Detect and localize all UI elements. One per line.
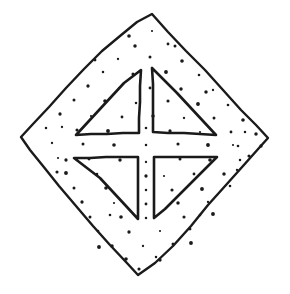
stipple-dot: [64, 171, 68, 175]
stipple-dot: [227, 104, 230, 107]
stipple-dot: [106, 129, 110, 133]
stipple-dot: [182, 215, 185, 218]
stipple-dot: [211, 212, 215, 216]
stipple-dot: [237, 145, 240, 148]
stipple-dot: [189, 241, 193, 245]
stipple-dot: [112, 143, 116, 147]
stipple-dot: [97, 245, 101, 249]
stipple-dot: [164, 70, 168, 74]
stipple-dot: [57, 157, 59, 159]
stipple-dot: [212, 89, 214, 91]
stipple-dot: [144, 174, 147, 177]
stipple-dot: [102, 71, 105, 74]
stipple-dot: [86, 84, 89, 87]
stipple-dot: [145, 189, 148, 192]
stipple-dot: [109, 214, 112, 217]
stipple-dot: [159, 230, 161, 232]
stipple-dot: [145, 127, 148, 130]
stipple-dot: [230, 131, 233, 134]
stipple-dot: [127, 230, 130, 233]
stipple-dot: [196, 102, 200, 106]
stipple-dot: [170, 188, 173, 191]
stipple-dot: [163, 175, 165, 177]
stipple-dot: [118, 158, 122, 162]
stipple-dot: [145, 203, 148, 206]
stipple-dot: [51, 142, 53, 144]
figure-canvas: Stippled diamond with four triangles for…: [0, 0, 290, 294]
stipple-dot: [213, 117, 216, 120]
diamond-stipple-drawing: Stippled diamond with four triangles for…: [0, 0, 290, 294]
stipple-dot: [174, 45, 177, 48]
stipple-dot: [137, 267, 140, 270]
stipple-dot: [82, 143, 85, 146]
stipple-dot: [149, 87, 152, 90]
stipple-dot: [232, 144, 234, 146]
stipple-dot: [183, 117, 185, 119]
stipple-dot: [155, 256, 158, 259]
background-plate: [0, 0, 290, 294]
stipple-dot: [145, 144, 148, 147]
stipple-dot: [204, 90, 208, 94]
stipple-dot: [229, 185, 232, 188]
stipple-dot: [73, 187, 76, 190]
stipple-dot: [127, 34, 131, 38]
stipple-dot: [113, 202, 115, 204]
stipple-dot: [193, 173, 196, 176]
stipple-dot: [239, 159, 242, 162]
stipple-dot: [176, 201, 180, 205]
stipple-dot: [80, 200, 83, 203]
stipple-dot: [45, 127, 48, 130]
stipple-dot: [133, 44, 137, 48]
stipple-dot: [89, 216, 92, 219]
stipple-dot: [198, 74, 201, 77]
stipple-dot: [142, 245, 144, 247]
stipple-dot: [206, 143, 210, 147]
stipple-dot: [241, 118, 245, 122]
stipple-dot: [149, 56, 152, 59]
stipple-dot: [151, 30, 153, 32]
stipple-dot: [64, 158, 67, 161]
stipple-dot: [176, 142, 179, 145]
stipple-dot: [200, 187, 204, 191]
stipple-dot: [145, 217, 148, 220]
stipple-dot: [58, 112, 61, 115]
stipple-dot: [167, 43, 170, 46]
stipple-dot: [121, 116, 124, 119]
stipple-dot: [119, 215, 123, 219]
stipple-dot: [61, 126, 63, 128]
stipple-dot: [117, 58, 119, 60]
stipple-dot: [145, 161, 147, 163]
stipple-dot: [254, 132, 258, 136]
stipple-dot: [179, 87, 183, 91]
stipple-dot: [55, 170, 58, 173]
stipple-dot: [166, 99, 169, 102]
stipple-dot: [73, 99, 76, 102]
stipple-dot: [222, 172, 226, 176]
stipple-dot: [180, 59, 184, 63]
stipple-dot: [135, 102, 138, 105]
stipple-dot: [244, 131, 247, 134]
